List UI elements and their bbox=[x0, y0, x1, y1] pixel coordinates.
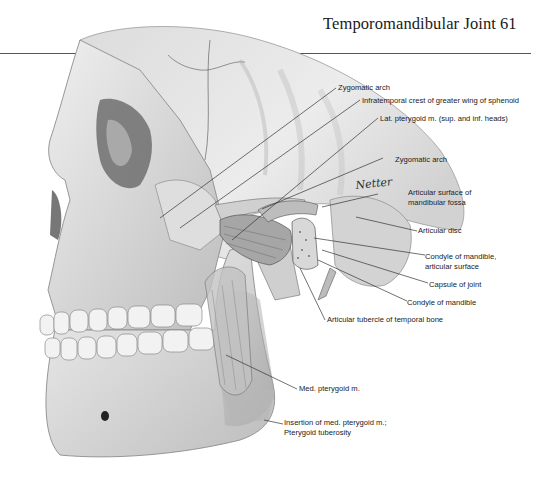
label-lat-pterygoid: Lat. pterygoid m. (sup. and inf. heads) bbox=[380, 114, 508, 124]
textbook-page: Temporomandibular Joint 61 bbox=[0, 0, 544, 483]
label-articular-disc: Articular disc bbox=[418, 226, 461, 236]
label-zygomatic-arch-upper: Zygomatic arch bbox=[338, 83, 390, 93]
label-articular-tubercle: Articular tubercle of temporal bone bbox=[327, 315, 443, 325]
label-condyle-articular-line2: articular surface bbox=[425, 262, 479, 272]
label-zygomatic-arch-lower: Zygomatic arch bbox=[395, 155, 447, 165]
tmj-detail bbox=[205, 196, 411, 395]
label-condyle-articular-line1: Condyle of mandible, bbox=[425, 252, 496, 262]
label-capsule-of-joint: Capsule of joint bbox=[429, 280, 481, 290]
label-med-pterygoid: Med. pterygoid m. bbox=[299, 384, 360, 394]
label-infratemporal-crest: Infratemporal crest of greater wing of s… bbox=[362, 96, 519, 106]
label-insertion-med-pterygoid-line2: Pterygoid tuberosity bbox=[284, 428, 351, 438]
label-condyle-of-mandible: Condyle of mandible bbox=[407, 298, 476, 308]
label-articular-surface-fossa-line1: Articular surface of bbox=[408, 188, 471, 198]
label-insertion-med-pterygoid-line1: Insertion of med. pterygoid m.; bbox=[284, 418, 387, 428]
skull-illustration: Netter bbox=[0, 0, 544, 483]
label-articular-surface-fossa-line2: mandibular fossa bbox=[408, 198, 466, 208]
